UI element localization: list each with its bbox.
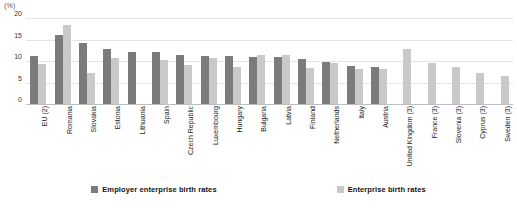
bar-enterprise-birth-rate	[403, 49, 411, 104]
bar-employer-enterprise-birth-rate	[347, 66, 355, 104]
bar-employer-enterprise-birth-rate	[30, 56, 38, 104]
x-axis-category-label: Cyprus (3)	[479, 106, 486, 139]
legend-label: Employer enterprise birth rates	[102, 185, 216, 194]
x-axis-category-label: Bulgaria	[260, 106, 267, 132]
bar-enterprise-birth-rate	[330, 63, 338, 104]
x-axis-category-label: Czech Republic	[187, 106, 194, 155]
x-axis-category-label: Sweden (3)	[504, 106, 511, 142]
y-axis-unit-label: (%)	[4, 2, 16, 9]
bar-employer-enterprise-birth-rate	[225, 56, 233, 104]
bar-enterprise-birth-rate	[428, 63, 436, 104]
bar-group	[123, 18, 147, 104]
bar-enterprise-birth-rate	[501, 76, 509, 104]
x-axis-category-label: Austria	[382, 106, 389, 128]
bar-group	[196, 18, 220, 104]
x-axis-category-label: Hungary	[236, 106, 243, 132]
bar-group	[148, 18, 172, 104]
x-axis-category-label: France (3)	[431, 106, 438, 138]
bar-enterprise-birth-rate	[184, 65, 192, 104]
x-axis-category-label: Finland	[309, 106, 316, 129]
bar-enterprise-birth-rate	[379, 69, 387, 104]
bar-employer-enterprise-birth-rate	[274, 57, 282, 104]
plot-area	[26, 18, 513, 104]
bar-enterprise-birth-rate	[233, 67, 241, 104]
bar-group	[270, 18, 294, 104]
legend-label: Enterprise birth rates	[348, 185, 426, 194]
x-axis-category-label: Estonia	[114, 106, 121, 129]
bars-layer	[26, 18, 513, 104]
legend-swatch-icon	[337, 186, 344, 193]
legend-item[interactable]: Enterprise birth rates	[337, 185, 426, 194]
bar-enterprise-birth-rate	[452, 67, 460, 104]
bar-group	[221, 18, 245, 104]
bar-group	[367, 18, 391, 104]
bar-group	[245, 18, 269, 104]
bar-enterprise-birth-rate	[282, 55, 290, 104]
x-axis-category-label: Netherlands	[333, 106, 340, 144]
x-axis-category-labels: EU (2)RomaniaSlovakiaEstoniaLithuaniaSpa…	[26, 106, 513, 172]
legend-swatch-icon	[91, 186, 98, 193]
y-axis-tick-label: 0	[4, 96, 22, 103]
bar-employer-enterprise-birth-rate	[79, 43, 87, 104]
y-axis-tick-label: 5	[4, 75, 22, 82]
bar-enterprise-birth-rate	[355, 69, 363, 104]
x-axis-category-label: Italy	[358, 106, 365, 119]
y-axis-tick-label: 15	[4, 32, 22, 39]
x-axis-category-label: Latvia	[285, 106, 292, 125]
bar-employer-enterprise-birth-rate	[201, 56, 209, 104]
bar-enterprise-birth-rate	[160, 60, 168, 104]
bar-employer-enterprise-birth-rate	[103, 49, 111, 104]
bar-employer-enterprise-birth-rate	[152, 52, 160, 104]
chart-legend: Employer enterprise birth ratesEnterpris…	[0, 185, 517, 194]
x-axis-category-label: Spain	[163, 106, 170, 124]
bar-group	[440, 18, 464, 104]
bar-enterprise-birth-rate	[111, 58, 119, 104]
bar-group	[489, 18, 513, 104]
bar-group	[318, 18, 342, 104]
bar-enterprise-birth-rate	[87, 73, 95, 104]
y-axis-tick-label: 20	[4, 10, 22, 17]
bar-employer-enterprise-birth-rate	[128, 52, 136, 104]
x-axis-category-label: Slovakia	[90, 106, 97, 132]
bar-enterprise-birth-rate	[209, 58, 217, 104]
bar-enterprise-birth-rate	[257, 55, 265, 104]
x-axis-category-label: Luxembourg	[212, 106, 219, 145]
x-axis-category-label: EU (2)	[41, 106, 48, 126]
bar-employer-enterprise-birth-rate	[55, 35, 63, 104]
bar-group	[99, 18, 123, 104]
bar-group	[172, 18, 196, 104]
bar-employer-enterprise-birth-rate	[298, 59, 306, 104]
bar-group	[75, 18, 99, 104]
x-axis-category-label: Lithuania	[139, 106, 146, 134]
x-axis-category-label: Slovenia (3)	[455, 106, 462, 143]
bar-employer-enterprise-birth-rate	[249, 57, 257, 104]
bar-group	[464, 18, 488, 104]
bar-enterprise-birth-rate	[306, 68, 314, 104]
y-axis-tick-label: 10	[4, 53, 22, 60]
gridline	[26, 104, 513, 105]
bar-employer-enterprise-birth-rate	[322, 62, 330, 104]
bar-group	[343, 18, 367, 104]
bar-enterprise-birth-rate	[38, 64, 46, 104]
bar-chart: (%) 05101520 EU (2)RomaniaSlovakiaEstoni…	[0, 0, 517, 208]
bar-employer-enterprise-birth-rate	[371, 67, 379, 104]
bar-employer-enterprise-birth-rate	[176, 55, 184, 104]
bar-group	[416, 18, 440, 104]
bar-group	[391, 18, 415, 104]
legend-item[interactable]: Employer enterprise birth rates	[91, 185, 216, 194]
bar-group	[50, 18, 74, 104]
bar-group	[26, 18, 50, 104]
x-axis-category-label: United Kingdom (3)	[406, 106, 413, 166]
bar-enterprise-birth-rate	[476, 73, 484, 104]
x-axis-category-label: Romania	[66, 106, 73, 134]
bar-enterprise-birth-rate	[63, 25, 71, 104]
bar-group	[294, 18, 318, 104]
